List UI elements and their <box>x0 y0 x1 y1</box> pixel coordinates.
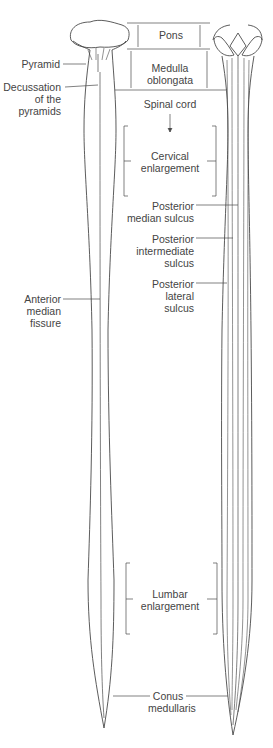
anterior-cord-right-edge <box>104 50 116 728</box>
pons-anterior <box>70 20 129 47</box>
label-medulla-oblongata: Medulla oblongata <box>142 62 198 86</box>
anterior-view <box>70 20 129 728</box>
label-posterior-intermediate-sulcus: Posterior intermediate sulcus <box>116 233 194 269</box>
label-posterior-median-sulcus: Posterior median sulcus <box>116 200 194 224</box>
label-anterior-median-fissure: Anterior median fissure <box>0 293 61 329</box>
label-posterior-lateral-sulcus: Posterior lateral sulcus <box>116 278 194 314</box>
label-conus-medullaris: Conus medullaris <box>148 690 188 714</box>
label-pyramid: Pyramid <box>0 58 60 70</box>
posterior-view <box>213 25 262 735</box>
anterior-median-fissure <box>100 72 104 718</box>
label-cervical-enlargement: Cervical enlargement <box>134 150 206 174</box>
label-lumbar-enlargement: Lumbar enlargement <box>134 588 206 612</box>
label-pons: Pons <box>153 29 189 41</box>
posterior-median-sulcus <box>233 56 238 725</box>
label-spinal-cord: Spinal cord <box>138 98 202 110</box>
label-decussation: Decussation of the pyramids <box>0 81 61 117</box>
